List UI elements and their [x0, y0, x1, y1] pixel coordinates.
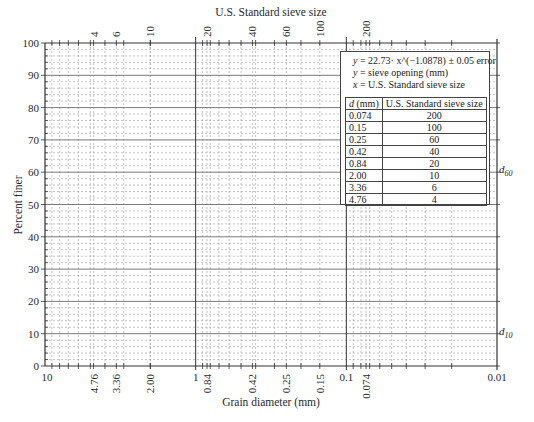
sieve-table-row: 0.15100: [346, 122, 487, 134]
x-tick-label: 0.01: [487, 371, 506, 383]
y-definition-text: = sieve opening (mm): [357, 67, 448, 78]
d10-marker: d10: [499, 325, 513, 340]
legend-box: y = 22.73· x^(−1.0878) ± 0.05 error y = …: [340, 51, 490, 205]
x-tick-label: 0.15: [314, 374, 326, 394]
sieve-size-label: 60: [280, 26, 292, 38]
header-diameter: d (mm): [346, 98, 383, 110]
diameter-cell: 0.074: [346, 110, 383, 122]
x-tick-label: 0.074: [360, 374, 372, 399]
sieve-table-row: 2.0010: [346, 170, 487, 182]
x-tick-label: 4.76: [88, 374, 100, 394]
y-tick-label: 80: [28, 102, 40, 114]
x-definition-text: = U.S. Standard sieve size: [357, 79, 465, 90]
y-axis-title: Percent finer: [12, 175, 24, 234]
x-tick-label: 0.25: [280, 374, 292, 394]
sieve-size-cell: 200: [382, 110, 486, 122]
sieve-size-label: 6: [110, 31, 122, 37]
d60-marker: d60: [499, 163, 513, 178]
sieve-table: d (mm) U.S. Standard sieve size 0.074200…: [345, 97, 487, 206]
diameter-cell: 4.76: [346, 194, 383, 206]
sieve-size-label: 10: [144, 26, 156, 38]
y-tick-label: 40: [28, 231, 40, 243]
sieve-size-cell: 6: [382, 182, 486, 194]
x-tick-label: 10: [42, 371, 54, 383]
y-tick-label: 50: [28, 199, 40, 211]
sieve-size-cell: 40: [382, 146, 486, 158]
sieve-table-row: 4.764: [346, 194, 487, 206]
y-tick-label: 10: [28, 328, 40, 340]
diameter-cell: 0.42: [346, 146, 383, 158]
y-tick-label: 90: [28, 69, 40, 81]
sieve-size-label: 4: [88, 31, 100, 37]
diameter-cell: 2.00: [346, 170, 383, 182]
equation-text: = 22.73· x^(−1.0878) ± 0.05 error: [357, 55, 495, 66]
header-sieve-size: U.S. Standard sieve size: [382, 98, 486, 110]
top-axis-title: U.S. Standard sieve size: [215, 6, 326, 18]
sieve-table-row: 0.4240: [346, 146, 487, 158]
sieve-table-row: 0.8420: [346, 158, 487, 170]
sieve-size-cell: 60: [382, 134, 486, 146]
y-tick-label: 0: [34, 360, 40, 372]
sieve-table-row: 0.074200: [346, 110, 487, 122]
sieve-size-cell: 10: [382, 170, 486, 182]
x-tick-label: 0.84: [201, 374, 213, 394]
sieve-size-cell: 100: [382, 122, 486, 134]
diameter-cell: 0.25: [346, 134, 383, 146]
x-tick-label: 0.42: [246, 374, 258, 393]
x-tick-label: 2.00: [144, 374, 156, 394]
sieve-size-label: 40: [246, 26, 258, 38]
sieve-size-label: 20: [201, 26, 213, 38]
y-tick-label: 100: [23, 37, 40, 49]
sieve-table-row: 3.366: [346, 182, 487, 194]
diameter-cell: 0.84: [346, 158, 383, 170]
sieve-size-cell: 4: [382, 194, 486, 206]
x-definition-line: x = U.S. Standard sieve size: [345, 79, 485, 91]
y-tick-label: 30: [28, 263, 40, 275]
equation-line: y = 22.73· x^(−1.0878) ± 0.05 error: [345, 55, 485, 67]
y-definition-line: y = sieve opening (mm): [345, 67, 485, 79]
diameter-cell: 3.36: [346, 182, 383, 194]
sieve-table-row: 0.2560: [346, 134, 487, 146]
y-tick-label: 20: [28, 295, 40, 307]
y-tick-label: 60: [28, 166, 40, 178]
x-axis-title: Grain diameter (mm): [222, 396, 320, 409]
x-tick-label: 0.1: [339, 371, 353, 383]
sieve-table-header: d (mm) U.S. Standard sieve size: [346, 98, 487, 110]
sieve-size-label: 100: [314, 20, 326, 37]
y-tick-label: 70: [28, 134, 40, 146]
x-tick-label: 3.36: [110, 374, 122, 394]
sieve-size-cell: 20: [382, 158, 486, 170]
diameter-cell: 0.15: [346, 122, 383, 134]
x-tick-label: 1: [193, 371, 199, 383]
sieve-size-label: 200: [360, 20, 372, 37]
